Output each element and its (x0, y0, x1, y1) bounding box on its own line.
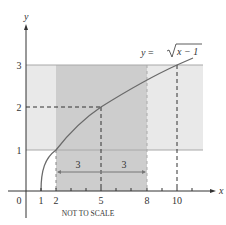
x-tick-label-10: 10 (172, 195, 182, 206)
y-tick-label-2: 2 (17, 102, 22, 113)
not-to-scale-note: NOT TO SCALE (62, 209, 115, 218)
function-label-prefix: = (145, 47, 154, 58)
function-diagram: 3 3 0 1 2 5 8 10 1 2 (0, 0, 226, 225)
interval-width-label-left: 3 (76, 159, 81, 170)
x-tick-label-5: 5 (99, 195, 104, 206)
x-axis-arrow-icon (210, 189, 216, 193)
y-tick-label-3: 3 (17, 60, 22, 71)
x-axis-label: x (218, 185, 224, 196)
x-tick-label-2: 2 (54, 195, 59, 206)
y-axis-label: y (23, 11, 29, 22)
y-tick-label-1: 1 (17, 145, 22, 156)
x-tick-label-8: 8 (145, 195, 150, 206)
x-tick-label-1: 1 (39, 195, 44, 206)
interval-width-label-right: 3 (122, 159, 127, 170)
y-axis-arrow-icon (24, 24, 28, 30)
function-label: y = (140, 47, 154, 58)
function-label-radicand: x − 1 (176, 46, 198, 57)
x-tick-label-0: 0 (17, 195, 22, 206)
